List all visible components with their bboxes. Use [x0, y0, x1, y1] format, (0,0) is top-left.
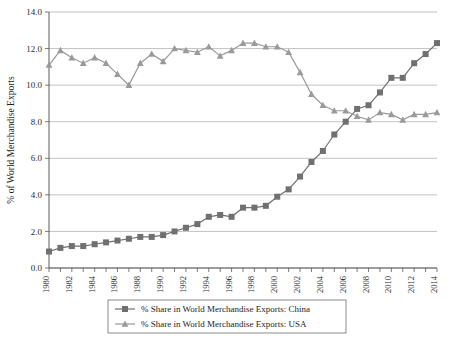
data-point-marker-square — [206, 214, 212, 220]
legend-label: % Share in World Merchandise Exports: US… — [141, 319, 307, 329]
y-axis-tick-label: 6.0 — [31, 153, 43, 163]
x-axis-tick-label: 1986 — [109, 276, 119, 293]
x-axis-tick-label: 2014 — [429, 275, 439, 293]
data-point-marker-triangle — [377, 109, 384, 115]
data-point-marker-square — [331, 132, 337, 138]
series-china — [46, 40, 440, 254]
x-axis-tick-label: 1998 — [246, 276, 256, 293]
data-point-marker-triangle — [103, 60, 110, 66]
y-axis-title: % of World Merchandise Exports — [6, 76, 16, 204]
data-point-marker-square — [92, 241, 98, 247]
x-axis-tick-label: 2002 — [292, 276, 302, 293]
data-point-marker-triangle — [57, 47, 64, 53]
x-axis-tick-label: 2010 — [383, 276, 393, 293]
x-axis-tick-label: 2012 — [406, 276, 416, 293]
data-point-marker-square — [57, 245, 63, 251]
y-axis-tick-label: 8.0 — [31, 117, 43, 127]
x-axis-tick-label: 1982 — [64, 276, 74, 293]
data-point-marker-square — [172, 228, 178, 234]
chart-container: 0.02.04.06.08.010.012.014.01980198219841… — [0, 0, 451, 339]
x-axis-tick-label: 2000 — [269, 276, 279, 293]
data-point-marker-square — [388, 75, 394, 81]
data-point-marker-square — [80, 243, 86, 249]
data-point-marker-square — [217, 212, 223, 218]
data-point-marker-square — [400, 75, 406, 81]
x-axis-tick-label: 1980 — [41, 276, 51, 293]
data-point-marker-square — [114, 238, 120, 244]
y-axis-tick-label: 2.0 — [31, 227, 43, 237]
data-point-marker-triangle — [308, 91, 315, 97]
data-point-marker-square — [194, 221, 200, 227]
data-point-marker-square — [297, 174, 303, 180]
data-point-marker-square — [149, 234, 155, 240]
x-axis-tick-label: 1988 — [132, 276, 142, 293]
data-point-marker-square — [251, 205, 257, 211]
series-usa — [46, 39, 441, 122]
data-point-marker-square — [263, 203, 269, 209]
y-axis-tick-label: 14.0 — [26, 7, 42, 17]
data-point-marker-triangle — [80, 60, 87, 66]
data-point-marker-square — [122, 306, 128, 312]
data-point-marker-triangle — [91, 54, 98, 60]
x-axis-tick-label: 1994 — [201, 275, 211, 293]
data-point-marker-triangle — [285, 49, 292, 55]
data-point-marker-square — [240, 205, 246, 211]
data-point-marker-square — [103, 239, 109, 245]
x-axis-tick-label: 1990 — [155, 276, 165, 293]
data-point-marker-triangle — [399, 116, 406, 122]
data-point-marker-square — [274, 194, 280, 200]
x-axis-tick-label: 2004 — [315, 275, 325, 293]
data-point-marker-square — [308, 159, 314, 165]
x-axis-tick-label: 1992 — [178, 276, 188, 293]
data-point-marker-square — [160, 232, 166, 238]
y-axis-tick-label: 4.0 — [31, 190, 43, 200]
data-point-marker-square — [434, 40, 440, 46]
x-axis-tick-label: 1996 — [224, 276, 234, 293]
legend-item-usa[interactable]: % Share in World Merchandise Exports: US… — [115, 319, 307, 329]
data-point-marker-square — [286, 186, 292, 192]
data-point-marker-triangle — [148, 50, 155, 56]
y-axis-tick-label: 12.0 — [26, 44, 42, 54]
data-point-marker-square — [320, 148, 326, 154]
data-point-marker-triangle — [171, 45, 178, 51]
data-point-marker-triangle — [297, 69, 304, 75]
data-point-marker-square — [377, 89, 383, 95]
y-axis-tick-label: 10.0 — [26, 80, 42, 90]
x-axis-tick-label: 1984 — [87, 275, 97, 293]
data-point-marker-triangle — [354, 113, 361, 119]
data-point-marker-triangle — [434, 109, 441, 115]
line-chart: 0.02.04.06.08.010.012.014.01980198219841… — [0, 0, 451, 339]
data-point-marker-square — [126, 236, 132, 242]
data-point-marker-square — [366, 102, 372, 108]
data-point-marker-square — [354, 106, 360, 112]
data-point-marker-square — [69, 243, 75, 249]
data-point-marker-square — [229, 214, 235, 220]
data-point-marker-square — [343, 119, 349, 125]
legend-item-china[interactable]: % Share in World Merchandise Exports: Ch… — [115, 304, 310, 314]
x-axis-tick-label: 2008 — [361, 276, 371, 293]
series-line — [49, 43, 437, 251]
data-point-marker-square — [411, 60, 417, 66]
data-point-marker-square — [137, 234, 143, 240]
data-point-marker-square — [183, 225, 189, 231]
data-point-marker-square — [46, 249, 52, 255]
series-line — [49, 43, 437, 120]
y-axis-tick-label: 0.0 — [31, 263, 43, 273]
data-point-marker-triangle — [228, 47, 235, 53]
data-point-marker-triangle — [205, 43, 212, 49]
legend-label: % Share in World Merchandise Exports: Ch… — [141, 304, 310, 314]
data-point-marker-square — [423, 51, 429, 57]
data-point-marker-triangle — [68, 54, 75, 60]
x-axis-tick-label: 2006 — [338, 276, 348, 293]
